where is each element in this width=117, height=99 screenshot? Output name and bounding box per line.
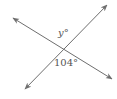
intersecting-lines-diagram: y° 104° (0, 0, 117, 99)
line-b (25, 5, 107, 89)
angle-label-104: 104° (54, 57, 78, 68)
angle-label-y: y° (57, 27, 69, 38)
